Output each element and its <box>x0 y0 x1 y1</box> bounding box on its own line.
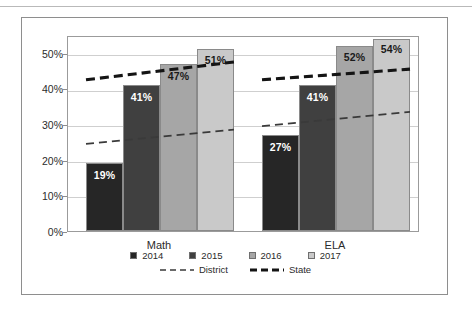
legend-label: 2014 <box>142 250 163 261</box>
legend-swatch-icon <box>249 252 256 259</box>
legend-item-2016[interactable]: 2016 <box>249 250 282 261</box>
y-tick-label-10: 10% <box>23 190 63 202</box>
legend-item-2014[interactable]: 2014 <box>130 250 163 261</box>
chart-frame: 50% 40% 30% 20% 10% 0% 19% 41% <box>21 17 448 295</box>
bar-ela-2017[interactable]: 54% <box>373 39 410 231</box>
legend-item-state[interactable]: State <box>250 264 311 275</box>
bar-value-label: 41% <box>300 91 335 103</box>
legend-swatch-icon <box>308 252 315 259</box>
legend-item-2015[interactable]: 2015 <box>189 250 222 261</box>
bar-math-2017[interactable]: 51% <box>197 49 234 231</box>
legend-item-2017[interactable]: 2017 <box>308 250 341 261</box>
y-tick-label-20: 20% <box>23 155 63 167</box>
bar-value-label: 51% <box>198 54 233 66</box>
legend-label: District <box>199 264 228 275</box>
legend-lines-row: District State <box>22 264 449 275</box>
chart-canvas: 50% 40% 30% 20% 10% 0% 19% 41% <box>22 18 449 296</box>
y-tick-label-50: 50% <box>23 48 63 60</box>
bar-math-2016[interactable]: 47% <box>160 64 197 232</box>
bar-value-label: 54% <box>374 43 409 55</box>
dashed-line-thin-icon <box>160 266 194 274</box>
plot-area: 19% 41% 47% 51% 27% 41% 52% 54% <box>67 36 419 232</box>
legend-swatch-icon <box>189 252 196 259</box>
bar-value-label: 27% <box>263 141 298 153</box>
y-tick-mark-0 <box>63 232 67 233</box>
legend-series-row: 2014 2015 2016 2017 <box>22 250 449 261</box>
dashed-line-thick-icon <box>250 266 284 274</box>
bar-value-label: 52% <box>337 51 372 63</box>
bar-math-2015[interactable]: 41% <box>123 85 160 231</box>
legend-label: State <box>289 264 311 275</box>
bar-math-2014[interactable]: 19% <box>86 163 123 231</box>
bar-ela-2014[interactable]: 27% <box>262 135 299 231</box>
y-tick-label-30: 30% <box>23 119 63 131</box>
bar-value-label: 41% <box>124 91 159 103</box>
bar-value-label: 47% <box>161 70 196 82</box>
legend-label: 2017 <box>320 250 341 261</box>
legend-swatch-icon <box>130 252 137 259</box>
chart-legend: 2014 2015 2016 2017 <box>22 250 449 275</box>
legend-label: 2016 <box>261 250 282 261</box>
bar-ela-2016[interactable]: 52% <box>336 46 373 231</box>
bar-ela-2015[interactable]: 41% <box>299 85 336 231</box>
y-tick-label-40: 40% <box>23 83 63 95</box>
legend-item-district[interactable]: District <box>160 264 228 275</box>
bar-value-label: 19% <box>87 169 122 181</box>
y-tick-label-0: 0% <box>23 226 63 238</box>
top-divider-rule <box>0 6 472 7</box>
legend-label: 2015 <box>201 250 222 261</box>
y-axis: 50% 40% 30% 20% 10% 0% <box>22 36 63 232</box>
